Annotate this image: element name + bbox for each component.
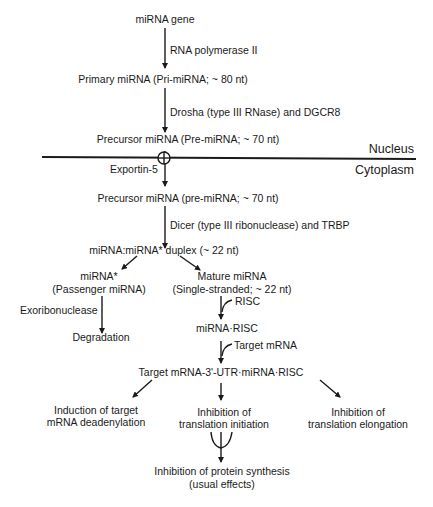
- node-protein-synthesis-line2: (usual effects): [189, 478, 255, 490]
- node-mature-line1: Mature miRNA: [198, 270, 267, 282]
- arrow-to-elongation: [320, 380, 340, 397]
- node-pre-mirna-cytoplasm: Precursor miRNA (pre-miRNA; ~ 70 nt): [97, 192, 278, 204]
- node-initiation-line1: Inhibition of: [197, 406, 251, 418]
- arrow-to-deadenylation: [133, 380, 152, 397]
- label-dicer: Dicer (type III ribonuclease) and TRBP: [170, 219, 350, 231]
- label-exoribonuclease: Exoribonuclease: [20, 304, 98, 316]
- node-degradation: Degradation: [72, 331, 129, 343]
- label-risc: RISC: [235, 295, 260, 307]
- node-mature-line2: (Single-stranded; ~ 22 nt): [173, 283, 292, 295]
- target-mrna-join-curve: [222, 344, 232, 356]
- node-mirna-risc: miRNA·RISC: [196, 322, 258, 334]
- node-duplex: miRNA:miRNA* duplex (~ 22 nt): [89, 244, 239, 256]
- node-protein-synthesis-line1: Inhibition of protein synthesis: [154, 465, 289, 477]
- node-mirna-gene: miRNA gene: [136, 13, 195, 25]
- nuclear-membrane: [42, 157, 416, 159]
- node-initiation-line2: translation initiation: [179, 418, 269, 430]
- node-passenger-line2: (Passenger miRNA): [52, 283, 145, 295]
- label-exportin-5: Exportin-5: [110, 163, 158, 175]
- arrow-duplex-to-mature: [180, 256, 200, 270]
- node-pri-mirna: Primary miRNA (Pri-miRNA; ~ 80 nt): [78, 73, 247, 85]
- label-rna-polymerase: RNA polymerase II: [170, 44, 258, 56]
- node-deadenylation-line2: mRNA deadenylation: [47, 416, 146, 428]
- arrow-duplex-to-passenger: [122, 256, 137, 269]
- compartment-nucleus: Nucleus: [369, 143, 414, 155]
- node-target-complex: Target mRNA-3'-UTR·miRNA·RISC: [139, 366, 304, 378]
- label-drosha: Drosha (type III RNase) and DGCR8: [170, 106, 340, 118]
- label-target-mrna: Target mRNA: [234, 339, 297, 351]
- risc-join-curve: [222, 300, 232, 312]
- node-pre-mirna-nucleus: Precursor miRNA (Pre-miRNA; ~ 70 nt): [97, 133, 279, 145]
- node-elongation-line2: translation elongation: [308, 418, 408, 430]
- node-elongation-line1: Inhibition of: [331, 406, 385, 418]
- node-passenger-line1: miRNA*: [80, 270, 117, 282]
- compartment-cytoplasm: Cytoplasm: [355, 164, 414, 176]
- node-deadenylation-line1: Induction of target: [54, 404, 138, 416]
